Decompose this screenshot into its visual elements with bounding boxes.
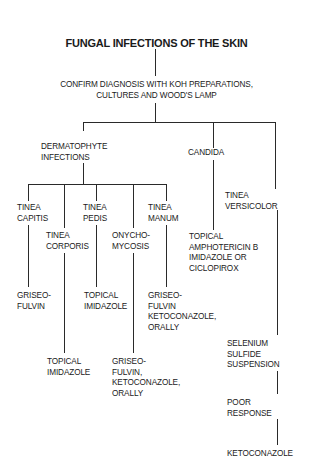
connector-line xyxy=(28,184,29,201)
node-line: TOPICAL xyxy=(47,357,90,368)
poor-response-node: POOR RESPONSE xyxy=(227,398,272,419)
node-line: TINEA xyxy=(83,203,107,214)
node-line: PEDIS xyxy=(83,214,107,225)
node-line: TINEA xyxy=(17,203,48,214)
node-line: TINEA xyxy=(148,203,178,214)
node-line: SULFIDE xyxy=(227,350,280,361)
node-line: RESPONSE xyxy=(227,409,272,420)
node-line: ONYCHO- xyxy=(112,231,150,242)
tinea-pedis-node: TINEA PEDIS xyxy=(83,203,107,224)
pedis-treatment-node: TOPICAL IMIDAZOLE xyxy=(84,291,127,312)
node-line: ORALLY xyxy=(148,323,216,334)
node-line: IMIDAZOLE xyxy=(84,302,127,313)
tinea-manum-node: TINEA MANUM xyxy=(148,203,178,224)
node-line: DERMATOPHYTE xyxy=(41,142,107,153)
node-line: KETOCONAZOLE, xyxy=(112,378,180,389)
node-line: SELENIUM xyxy=(227,339,280,350)
connector-line xyxy=(96,184,97,201)
node-line: TOPICAL xyxy=(84,291,127,302)
candida-node: CANDIDA xyxy=(188,148,224,159)
node-line: FULVIN, xyxy=(112,368,180,379)
connector-line xyxy=(96,225,97,287)
node-line: TOPICAL xyxy=(189,232,258,243)
connector-line xyxy=(275,122,276,189)
connector-line xyxy=(213,160,214,230)
node-line: ORALLY xyxy=(112,389,180,400)
onychomycosis-node: ONYCHO- MYCOSIS xyxy=(112,231,150,252)
dermatophyte-infections-node: DERMATOPHYTE INFECTIONS xyxy=(41,142,107,163)
node-line: SUSPENSION xyxy=(227,360,280,371)
node-line: VERSICOLOR xyxy=(225,202,278,213)
connector-line xyxy=(155,49,156,76)
node-line: IMIDAZOLE xyxy=(47,368,90,379)
node-line: MYCOSIS xyxy=(112,242,150,253)
connector-line xyxy=(213,122,214,148)
manum-treatment-node: GRISEO- FULVIN KETOCONAZOLE, ORALLY xyxy=(148,291,216,333)
connector-line xyxy=(277,210,278,335)
connector-line xyxy=(64,184,65,228)
confirm-diagnosis-node: CONFIRM DIAGNOSIS WITH KOH PREPARATIONS,… xyxy=(0,80,313,101)
node-line: IMIDAZOLE OR xyxy=(189,253,258,264)
connector-line xyxy=(277,371,278,394)
connector-line xyxy=(133,253,134,353)
node-line: TINEA xyxy=(225,191,278,202)
node-line: GRISEO- xyxy=(17,291,51,302)
connector-line xyxy=(155,103,156,122)
connector-line xyxy=(28,225,29,287)
node-line: CAPITIS xyxy=(17,214,48,225)
node-line: FULVIN xyxy=(148,302,216,313)
connector-line xyxy=(83,163,84,184)
confirm-line-2: CULTURES AND WOOD'S LAMP xyxy=(0,91,313,102)
connector-line xyxy=(166,184,167,201)
onychomycosis-treatment-node: GRISEO- FULVIN, KETOCONAZOLE, ORALLY xyxy=(112,357,180,399)
selenium-sulfide-node: SELENIUM SULFIDE SUSPENSION xyxy=(227,339,280,371)
node-line: KETOCONAZOLE, xyxy=(148,312,216,323)
node-line: MANUM xyxy=(148,214,178,225)
node-line: CANDIDA xyxy=(188,148,224,159)
candida-treatment-node: TOPICAL AMPHOTERICIN B IMIDAZOLE OR CICL… xyxy=(189,232,258,274)
diagram-title: FUNGAL INFECTIONS OF THE SKIN xyxy=(0,37,313,49)
confirm-line-1: CONFIRM DIAGNOSIS WITH KOH PREPARATIONS, xyxy=(0,80,313,91)
node-line: CICLOPIROX xyxy=(189,264,258,275)
tinea-capitis-node: TINEA CAPITIS xyxy=(17,203,48,224)
node-line: FULVIN xyxy=(17,302,51,313)
ketoconazole-node: KETOCONAZOLE xyxy=(227,449,293,460)
connector-line xyxy=(277,419,278,445)
connector-line xyxy=(133,184,134,228)
node-line: AMPHOTERICIN B xyxy=(189,243,258,254)
connector-line xyxy=(64,253,65,353)
node-line: TINEA xyxy=(46,231,89,242)
tinea-corporis-node: TINEA CORPORIS xyxy=(46,231,89,252)
node-line: CORPORIS xyxy=(46,242,89,253)
connector-line xyxy=(83,122,84,131)
node-line: POOR xyxy=(227,398,272,409)
node-line: GRISEO- xyxy=(112,357,180,368)
connector-line xyxy=(83,122,276,123)
capitis-treatment-node: GRISEO- FULVIN xyxy=(17,291,51,312)
connector-line xyxy=(28,184,167,185)
tinea-versicolor-node: TINEA VERSICOLOR xyxy=(225,191,278,212)
node-line: KETOCONAZOLE xyxy=(227,449,293,460)
connector-line xyxy=(166,225,167,287)
node-line: INFECTIONS xyxy=(41,153,107,164)
corporis-treatment-node: TOPICAL IMIDAZOLE xyxy=(47,357,90,378)
node-line: GRISEO- xyxy=(148,291,216,302)
